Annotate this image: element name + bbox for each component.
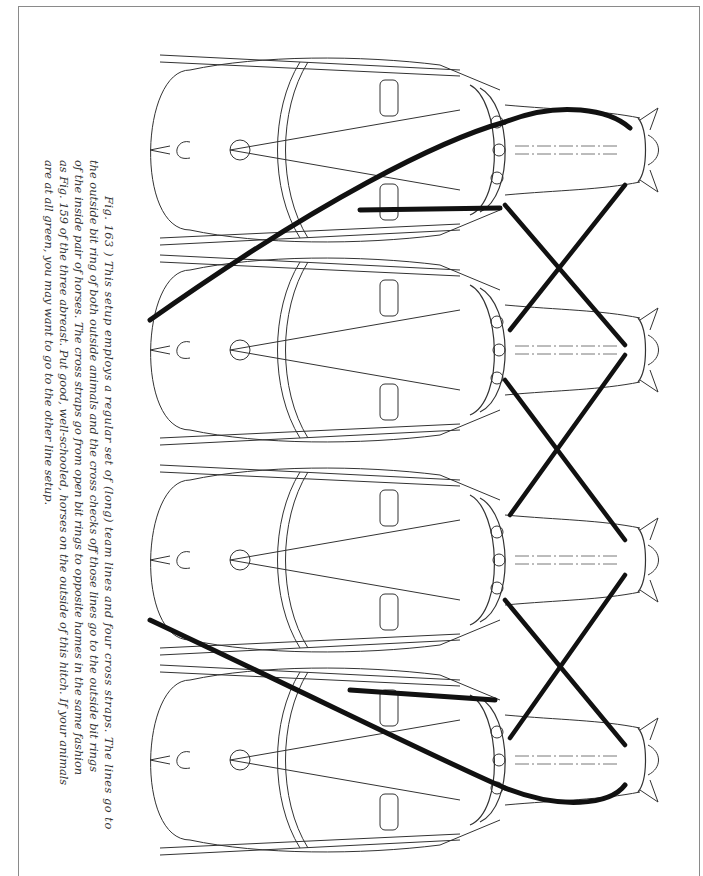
figure-caption: Fig. 163 ) This setup employs a regular …	[32, 160, 116, 720]
caption-line-1: Fig. 163 ) This setup employs a regular …	[101, 160, 116, 720]
team-lines	[150, 109, 630, 802]
caption-line-2: the outside bit ring of both outside ani…	[86, 160, 101, 720]
caption-line-4: as Fig. 159 of the three abreast. Put go…	[56, 160, 71, 720]
caption-line-3: of the inside pair of horses. The cross …	[71, 160, 86, 720]
horse-1	[150, 55, 659, 245]
cross-straps	[505, 185, 625, 745]
horse-3	[150, 465, 659, 655]
caption-line-5: are at all green, you may want to go to …	[41, 160, 56, 720]
